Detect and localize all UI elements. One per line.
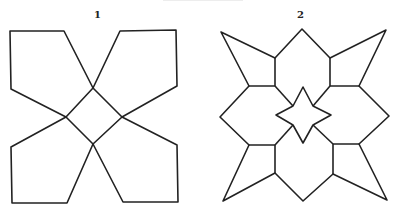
figure-2 bbox=[220, 29, 389, 201]
figure-1 bbox=[10, 30, 178, 203]
figures-drawing bbox=[0, 0, 396, 213]
